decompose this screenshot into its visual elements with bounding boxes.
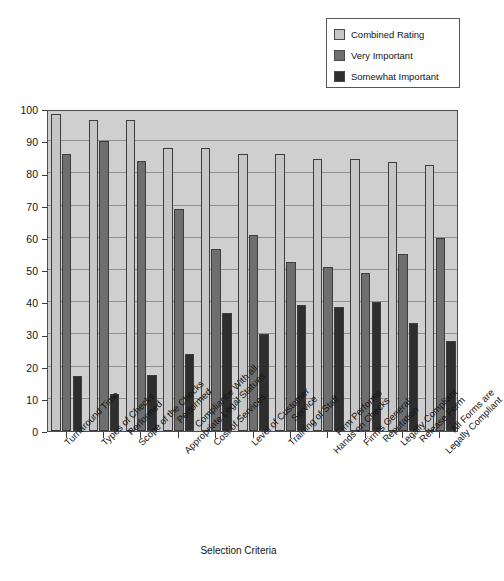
legend-item-label: Somewhat Important	[351, 71, 439, 82]
y-axis-tick-label: 80	[26, 168, 47, 180]
bar-group	[425, 111, 456, 431]
bar-group	[89, 111, 120, 431]
bar-group	[313, 111, 344, 431]
bar	[89, 120, 99, 431]
y-tick-value: 0	[32, 426, 38, 438]
bar	[62, 154, 72, 431]
bar	[163, 148, 173, 431]
bar-group	[51, 111, 82, 431]
bar	[334, 307, 344, 431]
bar-group	[201, 111, 232, 431]
bar	[275, 154, 285, 431]
y-axis: 0102030405060708090100	[0, 110, 47, 432]
bar	[350, 159, 360, 431]
y-tick-value: 10	[26, 394, 38, 406]
y-tick-value: 80	[26, 168, 38, 180]
bar-group	[126, 111, 157, 431]
y-axis-tick-label: 90	[26, 136, 47, 148]
bar	[137, 161, 147, 431]
legend-item: Very Important	[334, 46, 453, 65]
bar-group	[275, 111, 306, 431]
bar	[51, 114, 61, 431]
bar-group	[388, 111, 419, 431]
bar	[99, 141, 109, 431]
y-axis-tick-label: 30	[26, 329, 47, 341]
y-axis-tick-label: 0	[32, 426, 47, 438]
x-axis-labels: Turnaround TimeTypes of ChecksPerformedS…	[0, 438, 477, 538]
bar-group	[163, 111, 194, 431]
bar	[425, 165, 435, 431]
y-axis-tick-label: 20	[26, 362, 47, 374]
bar	[126, 120, 136, 431]
y-axis-tick-label: 100	[20, 104, 47, 116]
legend-item: Combined Rating	[334, 25, 453, 44]
bar-group	[350, 111, 381, 431]
legend-item-label: Combined Rating	[351, 29, 424, 40]
y-tick-value: 50	[26, 265, 38, 277]
legend-swatch-icon	[334, 50, 345, 61]
legend-item: Somewhat Important	[334, 67, 453, 86]
y-axis-tick-label: 50	[26, 265, 47, 277]
y-axis-tick-label: 70	[26, 201, 47, 213]
y-tick-value: 60	[26, 233, 38, 245]
y-tick-value: 100	[20, 104, 38, 116]
y-tick-value: 30	[26, 329, 38, 341]
y-tick-value: 90	[26, 136, 38, 148]
bar	[388, 162, 398, 431]
y-axis-tick-label: 40	[26, 297, 47, 309]
y-tick-value: 40	[26, 297, 38, 309]
legend-swatch-icon	[334, 71, 345, 82]
y-axis-tick-label: 60	[26, 233, 47, 245]
x-axis-title: Selection Criteria	[0, 545, 477, 556]
legend-item-label: Very Important	[351, 50, 413, 61]
y-tick-value: 70	[26, 201, 38, 213]
legend-swatch-icon	[334, 29, 345, 40]
bar	[313, 159, 323, 431]
y-tick-value: 20	[26, 362, 38, 374]
chart-legend: Combined RatingVery ImportantSomewhat Im…	[326, 18, 460, 88]
y-axis-tick-label: 10	[26, 394, 47, 406]
